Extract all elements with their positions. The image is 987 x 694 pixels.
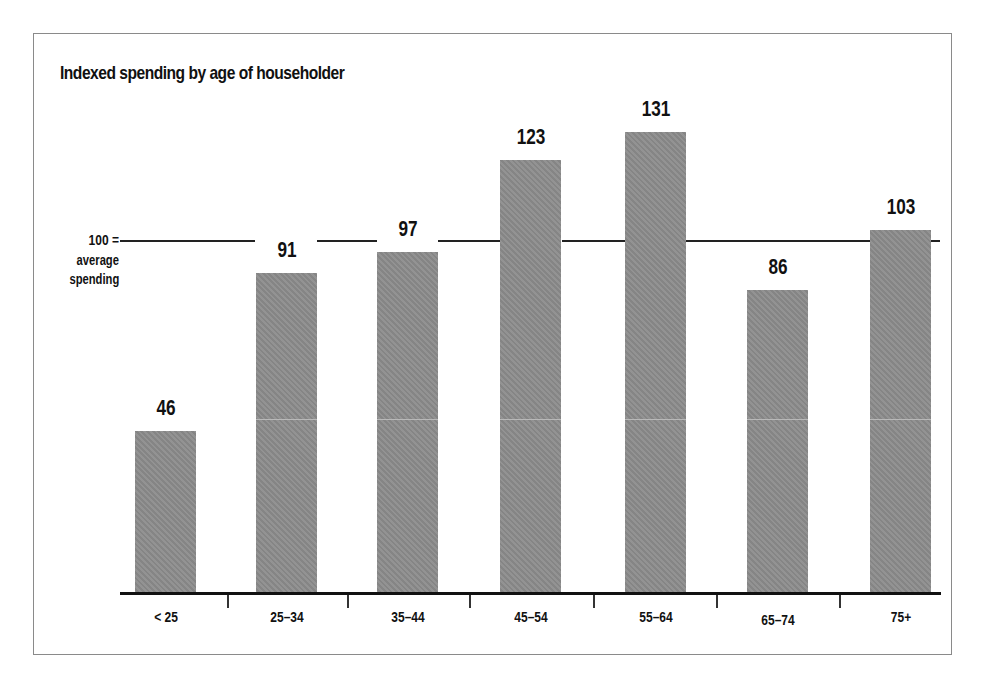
bar-highlight-line	[625, 419, 686, 420]
x-axis-category-label: < 25	[134, 608, 198, 625]
x-axis-tick	[469, 594, 471, 608]
bar-highlight-line	[870, 419, 931, 420]
bar-value-label: 97	[376, 216, 438, 242]
bar	[625, 132, 686, 593]
bar	[500, 160, 561, 593]
chart-title: Indexed spending by age of householder	[60, 62, 344, 84]
reference-label-value: 100 =	[89, 230, 119, 249]
reference-label-average: average	[77, 251, 119, 270]
bar-highlight-line	[747, 419, 808, 420]
x-axis-category-label: 25–34	[255, 608, 319, 625]
bar-highlight-line	[256, 419, 317, 420]
reference-line	[317, 240, 377, 242]
x-axis-category-label: 35–44	[376, 608, 440, 625]
x-axis-tick	[347, 594, 349, 608]
x-axis-category-label: 45–54	[499, 608, 563, 625]
x-axis-category-label: 75+	[869, 608, 933, 625]
x-axis-category-label: 55–64	[624, 608, 688, 625]
bar	[256, 273, 317, 593]
reference-line	[120, 240, 255, 242]
bar-value-label: 91	[255, 237, 317, 263]
x-axis-tick	[593, 594, 595, 608]
bar-highlight-line	[500, 419, 561, 420]
x-axis-tick	[716, 594, 718, 608]
x-axis-tick	[227, 594, 229, 608]
x-axis-tick	[839, 594, 841, 608]
bar	[747, 290, 808, 593]
bar-value-label: 46	[134, 395, 196, 421]
x-axis	[120, 592, 941, 595]
bar-value-label: 131	[624, 96, 686, 122]
bar	[377, 252, 438, 593]
bar-value-label: 86	[746, 254, 808, 280]
bar-value-label: 103	[869, 194, 931, 220]
reference-line	[438, 240, 500, 242]
reference-line	[562, 240, 625, 242]
bar	[135, 431, 196, 593]
x-axis-category-label: 65–74	[746, 611, 810, 628]
bar-highlight-line	[377, 419, 438, 420]
reference-label-spending: spending	[69, 270, 119, 289]
bar-value-label: 123	[499, 124, 561, 150]
bar	[870, 230, 931, 593]
